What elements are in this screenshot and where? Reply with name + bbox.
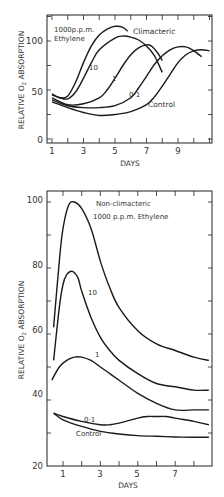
top-x-axis-label: DAYS [120,159,140,168]
top-ytick-50: 50 [32,87,44,97]
series-line [54,271,209,390]
bottom-xtick-7: 7 [172,469,177,479]
top-title-climacteric: Climacteric [133,27,175,36]
bottom-y-axis-label: RELATIVE O2 ABSORPTION [17,281,27,380]
top-chart: 0 50 100 1 3 5 7 9 DAYS RELATIVE O2 ABSO… [17,15,212,168]
top-xtick-5: 5 [112,146,117,156]
top-label-0-1: 0·1 [129,91,140,99]
bottom-label-1: 1 [95,351,99,359]
bottom-ticks [47,191,212,466]
top-xtick-9: 9 [175,146,180,156]
bottom-label-control: Control [76,430,101,438]
bottom-plot-frame [47,191,212,466]
top-ytick-100: 100 [26,36,43,46]
bottom-title-non-climacteric: Non-climacteric [96,200,151,208]
bottom-ytick-80: 80 [32,260,43,270]
top-xtick-1: 1 [49,146,54,156]
top-xtick-3: 3 [81,146,86,156]
bottom-ytick-40: 40 [32,389,43,399]
top-label-1: 1 [112,75,116,83]
top-label-ethylene-2: Ethylene [54,35,85,43]
top-ytick-0: 0 [37,135,43,145]
bottom-label-10: 10 [88,289,97,297]
bottom-label-0-1: 0·1 [84,416,95,424]
series-line [54,202,209,361]
top-xtick-7: 7 [144,146,149,156]
bottom-chart: 20 40 60 80 100 1 3 5 7 DAYS RELATIVE O2… [17,191,212,490]
series-line [52,46,202,107]
bottom-curves [52,202,209,438]
series-line [54,413,209,425]
top-label-control: Control [148,100,175,109]
bottom-ytick-20: 20 [32,461,43,471]
bottom-subtitle-ethylene: 1000 p.p.m. Ethylene [93,213,168,221]
top-y-axis-label: RELATIVE O2 ABSORPTION [17,31,27,130]
bottom-xtick-1: 1 [60,469,65,479]
bottom-ytick-100: 100 [27,195,43,205]
bottom-x-axis-label: DAYS [118,481,138,490]
series-line [52,357,209,411]
bottom-ytick-60: 60 [32,325,43,335]
bottom-xtick-3: 3 [97,469,102,479]
chart-figure: 0 50 100 1 3 5 7 9 DAYS RELATIVE O2 ABSO… [0,0,224,497]
top-label-ethylene-1: 1000p.p.m. [54,26,94,34]
top-label-10: 10 [89,64,98,72]
bottom-xtick-5: 5 [134,469,139,479]
